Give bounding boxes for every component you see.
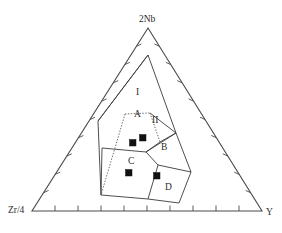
bottom-edge-ticks (55, 206, 239, 212)
field-label-i: I (136, 87, 139, 97)
data-point-marker (140, 135, 147, 142)
data-point-marker (130, 140, 137, 147)
field-label-a: A (134, 109, 141, 119)
field-line-A-left-dotted (101, 114, 125, 195)
ternary-diagram-svg: 2Nb Zr/4 Y I A II B C D (0, 0, 282, 233)
data-point-marker (126, 170, 133, 177)
field-label-d: D (165, 182, 172, 192)
field-label-ii: II (152, 115, 158, 125)
field-line-C-left (101, 148, 102, 195)
field-label-c: C (128, 156, 134, 166)
triangle-outline (32, 28, 262, 211)
field-label-b: B (161, 142, 167, 152)
data-point-marker (154, 173, 161, 180)
vertex-label-y: Y (266, 207, 273, 217)
field-line-C-D-divider (148, 165, 158, 199)
ternary-diagram-figure: 2Nb Zr/4 Y I A II B C D (0, 0, 282, 233)
field-outer-boundary (98, 55, 191, 203)
vertex-label-zr4: Zr/4 (8, 205, 25, 215)
vertex-label-2nb: 2Nb (139, 14, 156, 24)
